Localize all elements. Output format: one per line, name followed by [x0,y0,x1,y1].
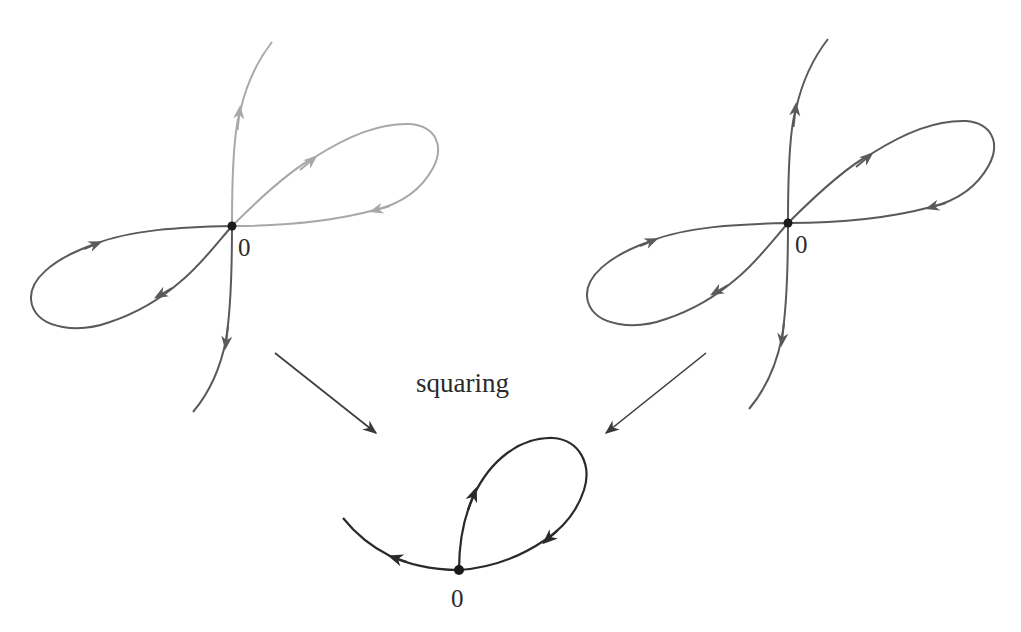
right-upper-branch [788,39,828,223]
origin-point [228,222,237,231]
left-right-loop [232,124,438,226]
squaring-caption: squaring [416,368,509,399]
arrow-down-icon [226,326,228,343]
arrow-down-icon [782,323,784,340]
right-left-loop [587,223,788,325]
mapping-arrow-left [275,353,376,433]
left-left-loop [31,226,232,328]
right-right-loop [788,121,994,223]
mapping-arrow-right [606,353,706,433]
arrow-loop-up-icon [468,494,474,510]
result-loop [459,438,586,570]
origin-point [454,565,464,575]
left-upper-branch [232,42,272,226]
arrow-loop-down-icon [548,530,558,539]
right-origin-label: 0 [795,231,808,259]
arrow-return-icon [932,203,946,207]
right-figure-eight [587,39,994,409]
origin-point [784,219,793,228]
left-lower-branch [193,226,232,412]
result-origin-label: 0 [451,585,464,613]
arrow-up-icon [238,112,240,130]
squared-result [343,438,586,575]
right-lower-branch [749,223,788,409]
diagram-canvas [0,0,1021,632]
arrow-return-icon [376,206,390,210]
result-tail [343,518,459,570]
arrow-up-icon [794,109,796,127]
left-origin-label: 0 [238,234,251,262]
left-figure-eight [31,42,438,412]
